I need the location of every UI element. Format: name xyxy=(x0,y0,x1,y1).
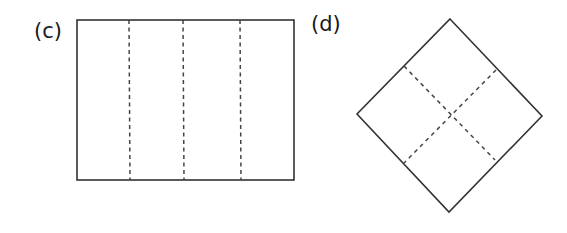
fold-diagrams xyxy=(0,0,567,233)
fold-line-1 xyxy=(129,20,130,180)
diagonal-fold-line-1 xyxy=(404,66,495,160)
rectangle-outline xyxy=(77,20,294,180)
diagonal-fold-lines xyxy=(404,66,496,163)
diamond-outline xyxy=(357,19,542,212)
fold-line-3 xyxy=(240,20,241,180)
vertical-fold-lines xyxy=(129,20,241,180)
panel-c-rectangle xyxy=(77,20,294,180)
fold-line-2 xyxy=(183,20,184,180)
diagonal-fold-line-2 xyxy=(404,70,496,163)
panel-d-diamond xyxy=(357,19,542,212)
